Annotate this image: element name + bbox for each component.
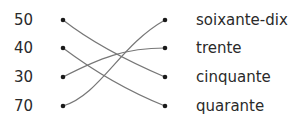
dot-right-cinquante[interactable] xyxy=(163,75,168,80)
dot-right-quarante[interactable] xyxy=(163,104,168,109)
matching-lines xyxy=(0,0,291,125)
line-40-quarante xyxy=(63,48,165,106)
dot-left-30[interactable] xyxy=(61,75,66,80)
dot-right-soixante-dix[interactable] xyxy=(163,18,168,23)
dot-left-40[interactable] xyxy=(61,46,66,51)
dot-left-70[interactable] xyxy=(61,104,66,109)
line-70-soixante-dix xyxy=(63,20,165,106)
dot-left-50[interactable] xyxy=(61,18,66,23)
dot-right-trente[interactable] xyxy=(163,46,168,51)
